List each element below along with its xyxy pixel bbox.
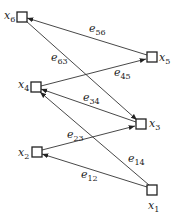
node-label-x5: x5	[159, 51, 170, 66]
node-x3	[136, 119, 146, 129]
node-x4	[31, 82, 41, 92]
node-x1	[147, 185, 157, 195]
node-label-x4: x4	[18, 78, 29, 93]
node-label-x3: x3	[149, 117, 160, 132]
node-x6	[17, 12, 27, 22]
edge-label-e45: e45	[114, 66, 131, 81]
node-x5	[147, 52, 157, 62]
node-label-x6: x6	[4, 9, 15, 24]
edge-label-e56: e56	[89, 22, 106, 37]
edge-e56	[27, 18, 147, 55]
graph-canvas: x1 x2 x3 x4 x5 x6 e12 e14 e23 e34 e45 e5…	[0, 0, 178, 217]
node-label-x2: x2	[18, 146, 29, 161]
edge-label-e14: e14	[128, 152, 145, 167]
edge-label-e34: e34	[83, 91, 100, 106]
edge-label-e23: e23	[67, 128, 84, 143]
edge-e23	[42, 126, 135, 150]
node-x2	[32, 147, 42, 157]
edge-label-e63: e63	[51, 51, 68, 66]
node-label-x1: x1	[148, 199, 159, 214]
